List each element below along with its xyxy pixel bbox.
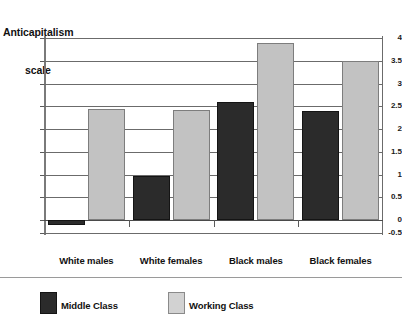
y-axis-tick-mark [40, 175, 44, 176]
legend-swatch-working-class [168, 292, 185, 314]
x-axis-category-label: White females [129, 255, 214, 266]
bar-white-females-middle-class [133, 176, 170, 220]
y-axis-tick-mark [40, 220, 44, 221]
x-axis-tick-mark [129, 220, 130, 227]
y-axis-tick-label: -0.5 [362, 229, 402, 237]
y-axis-tick-mark [40, 233, 44, 234]
y-axis-tick-mark [40, 61, 44, 62]
x-axis-bottom-line [44, 233, 383, 234]
legend-label: Middle Class [61, 300, 118, 311]
gridline [44, 38, 383, 39]
gridline [44, 61, 383, 62]
x-axis-category-label: Black females [298, 255, 383, 266]
bar-white-females-working-class [173, 110, 210, 220]
y-axis-tick-mark [40, 152, 44, 153]
bar-black-males-middle-class [217, 102, 254, 220]
legend-divider [0, 277, 402, 278]
y-axis-tick-mark [40, 38, 44, 39]
bar-black-females-working-class [342, 61, 379, 220]
bar-black-females-middle-class [302, 111, 339, 220]
x-axis-tick-mark [298, 220, 299, 227]
legend-label: Working Class [189, 300, 254, 311]
y-axis-tick-mark [40, 197, 44, 198]
x-axis-tick-mark [214, 220, 215, 227]
bar-white-males-middle-class [48, 220, 85, 225]
gridline [44, 84, 383, 85]
gridline [44, 106, 383, 107]
right-axis-tick-mark [377, 38, 383, 39]
y-axis-tick-mark [40, 129, 44, 130]
x-axis-category-label: Black males [214, 255, 299, 266]
y-axis-tick-mark [40, 84, 44, 85]
chart-figure: Anticapitalism scale Middle ClassWorking… [0, 0, 402, 330]
y-axis-tick-mark [40, 106, 44, 107]
bar-white-males-working-class [88, 109, 125, 220]
x-axis-category-label: White males [44, 255, 129, 266]
bar-black-males-working-class [257, 43, 294, 220]
legend-swatch-middle-class [40, 292, 57, 314]
chart-title-line-1: Anticapitalism [3, 26, 73, 39]
